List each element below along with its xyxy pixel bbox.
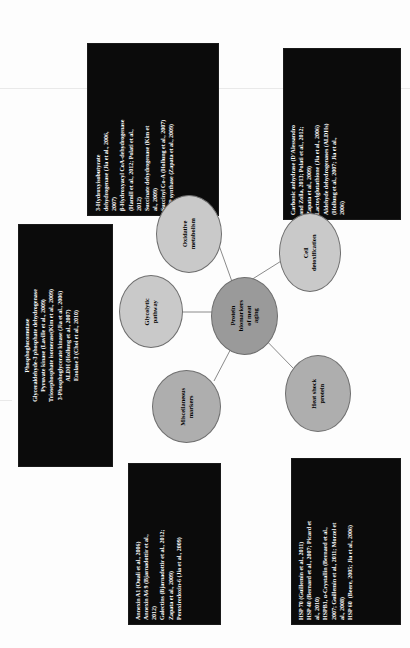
- node-label-miscellaneous-markers: Miscellaneous markers: [179, 388, 195, 426]
- scan-artifact-line: [0, 400, 12, 401]
- node-label-heat-shock-protein: Heat shock protein: [310, 379, 326, 409]
- reference-text-glycolytic-pathway: Phosphoglucomutase Glyceraldehyde-3 phos…: [24, 229, 81, 462]
- node-cell-detoxification[interactable]: Cell detoxification: [279, 213, 341, 292]
- node-center-protein-biomarkers[interactable]: Protein biomarkers of meat aging: [211, 277, 278, 355]
- reference-text-oxidative-metabolism: 3-Hydroxyisobutyrate dehydrogenase (Jia …: [95, 51, 177, 211]
- reference-box-oxidative-metabolism: 3-Hydroxyisobutyrate dehydrogenase (Jia …: [87, 43, 219, 216]
- reference-box-cell-detoxification: Carbonic anhydrase (D'Alessandro and Zol…: [283, 48, 401, 220]
- reference-box-glycolytic-pathway: Phosphoglucomutase Glyceraldehyde-3 phos…: [18, 224, 113, 467]
- node-glycolytic-pathway[interactable]: Glycolytic pathway: [119, 275, 183, 348]
- reference-text-miscellaneous-markers: Annexin A1 (Ouali et al., 2006) Annexin …: [135, 470, 184, 620]
- node-oxidative-metabolism[interactable]: Oxidative metabolism: [156, 195, 222, 273]
- node-label-glycolytic-pathway: Glycolytic pathway: [143, 298, 159, 325]
- node-label-center-protein-biomarkers: Protein biomarkers of meat aging: [229, 300, 260, 331]
- node-heat-shock-protein[interactable]: Heat shock protein: [285, 355, 351, 432]
- node-label-oxidative-metabolism: Oxidative metabolism: [181, 218, 197, 249]
- reference-box-heat-shock-protein: HSP 70 (Guillemin et al., 2011) HSP 40 (…: [291, 458, 401, 625]
- node-miscellaneous-markers[interactable]: Miscellaneous markers: [152, 370, 221, 443]
- figure-canvas: 3-Hydroxyisobutyrate dehydrogenase (Jia …: [0, 0, 410, 648]
- reference-text-heat-shock-protein: HSP 70 (Guillemin et al., 2011) HSP 40 (…: [298, 464, 355, 620]
- node-label-cell-detoxification: Cell detoxification: [302, 234, 318, 271]
- reference-text-cell-detoxification: Carbonic anhydrase (D'Alessandro and Zol…: [290, 57, 347, 215]
- reference-box-miscellaneous-markers: Annexin A1 (Ouali et al., 2006) Annexin …: [128, 463, 221, 625]
